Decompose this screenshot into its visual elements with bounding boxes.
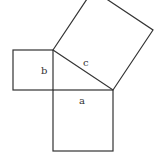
square-c bbox=[53, 0, 153, 90]
pythagoras-diagram: b c a bbox=[0, 0, 155, 161]
label-c: c bbox=[83, 57, 89, 68]
label-a: a bbox=[79, 95, 85, 106]
label-b: b bbox=[41, 65, 47, 76]
